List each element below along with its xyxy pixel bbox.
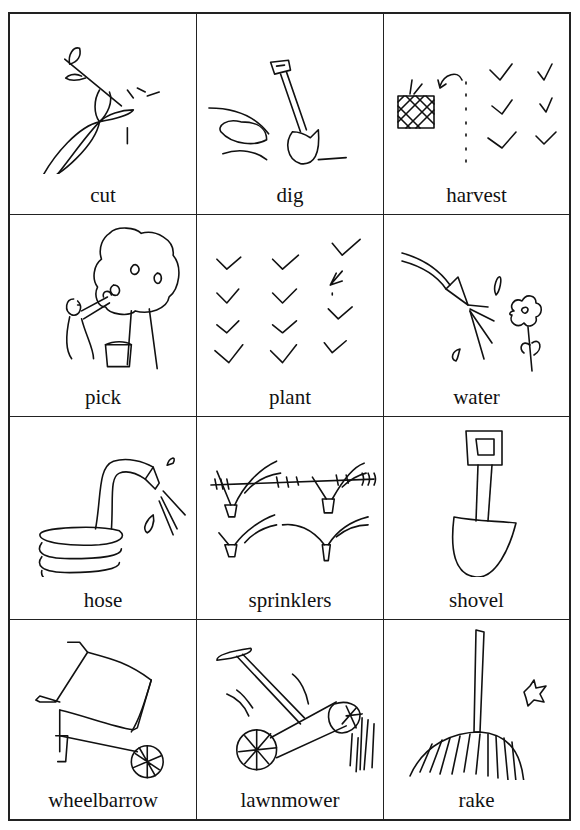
card-plant: plant [197,215,384,417]
card-water: water [384,215,569,417]
card-label: sprinklers [197,588,383,613]
sprinklers-icon [197,417,383,577]
card-harvest: harvest [384,14,569,215]
shovel-icon [384,417,569,577]
card-wheelbarrow: wheelbarrow [10,620,197,819]
card-label: wheelbarrow [10,788,196,813]
card-pick: pick [10,215,197,417]
card-shovel: shovel [384,417,569,620]
dig-shovel-icon [197,14,383,174]
card-label: plant [197,385,383,410]
card-label: pick [10,385,196,410]
card-hose: hose [10,417,197,620]
card-dig: dig [197,14,384,215]
card-label: lawnmower [197,788,383,813]
card-label: shovel [384,588,569,613]
hose-icon [10,417,196,577]
flashcard-grid: cut dig harvest [8,12,571,821]
card-cut: cut [10,14,197,215]
card-rake: rake [384,620,569,819]
card-label: rake [384,788,569,813]
card-label: harvest [384,183,569,208]
wheelbarrow-icon [10,620,196,780]
card-sprinklers: sprinklers [197,417,384,620]
card-label: water [384,385,569,410]
plant-seedlings-icon [197,215,383,375]
rake-icon [384,620,569,780]
card-label: cut [10,183,196,208]
water-flower-icon [384,215,569,375]
lawnmower-icon [197,620,383,780]
card-label: dig [197,183,383,208]
harvest-basket-icon [384,14,569,174]
pick-fruit-tree-icon [10,215,196,375]
cut-plant-icon [10,14,196,174]
card-label: hose [10,588,196,613]
card-lawnmower: lawnmower [197,620,384,819]
